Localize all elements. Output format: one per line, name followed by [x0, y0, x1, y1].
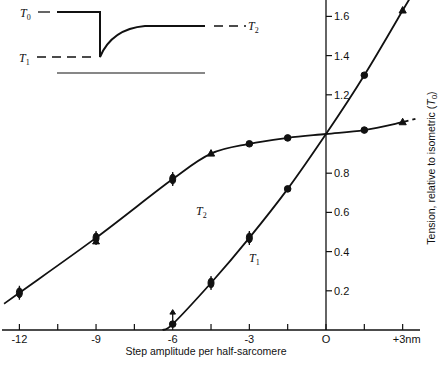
data-point-t1: [169, 310, 176, 328]
data-point-t2: [93, 231, 100, 245]
x-tick-label: +3nm: [393, 333, 421, 345]
data-point-t2: [170, 172, 176, 186]
data-point-t2: [246, 141, 253, 148]
y-tick-label: 0.4: [334, 246, 349, 258]
y-axis-title: Tension, relative to isometric (T0): [425, 91, 439, 244]
y-tick-label: 1.2: [334, 89, 349, 101]
x-tick-label: -12: [11, 333, 27, 345]
x-tick-label: -6: [168, 333, 178, 345]
x-axis-title: Step amplitude per half-sarcomere: [125, 345, 286, 357]
curve-t1: [163, 0, 413, 330]
x-tick-label: -3: [244, 333, 254, 345]
inset-t0-label: T0: [20, 6, 31, 22]
inset-transient-diagram: [37, 12, 246, 73]
x-axis-ticks: [19, 324, 402, 330]
y-tick-label: 0.8: [334, 167, 349, 179]
data-point-t1: [246, 231, 252, 245]
y-tick-label: 0.6: [334, 206, 349, 218]
tension-chart: T0 T1 T2 -12-9-6-3O+3nm 0.20.40.60.81.21…: [0, 0, 442, 368]
data-point-t1: [284, 186, 291, 193]
y-tick-label: 0.2: [334, 285, 349, 297]
inset-trace: [57, 12, 205, 57]
data-point-t2: [16, 286, 22, 300]
data-point-t2: [361, 127, 368, 134]
x-axis-tick-labels: -12-9-6-3O+3nm: [11, 333, 420, 345]
y-axis-tick-labels: 0.20.40.60.81.21.41.6: [334, 10, 349, 296]
curve-label-t1: T1: [249, 251, 260, 267]
inset-t2-label: T2: [248, 19, 259, 35]
x-tick-label: -9: [91, 333, 101, 345]
x-tick-label: O: [322, 333, 331, 345]
inset-t1-label: T1: [19, 51, 30, 67]
y-tick-label: 1.6: [334, 10, 349, 22]
data-point-t2: [284, 135, 291, 142]
data-point-t1: [361, 72, 368, 79]
curve-label-t2: T2: [196, 204, 207, 220]
y-tick-label: 1.4: [334, 50, 349, 62]
y-axis-ticks: [326, 16, 332, 290]
data-point-t1: [208, 276, 214, 290]
